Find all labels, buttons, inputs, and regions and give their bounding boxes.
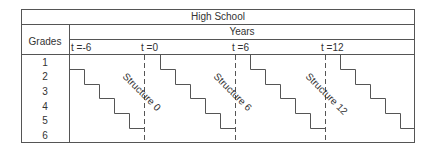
staircase-2 <box>161 55 236 129</box>
structure-12-label: Structure 12 <box>304 71 351 118</box>
grade-5: 5 <box>42 115 48 126</box>
grade-1: 1 <box>42 57 48 68</box>
title-high-school: High School <box>191 11 245 22</box>
high-school-structure-diagram: High School Years Grades t =-6 t =0 t =6… <box>0 0 436 149</box>
years-header: Years <box>229 26 254 37</box>
grade-2: 2 <box>42 71 48 82</box>
grade-list: 1 2 3 4 5 6 <box>42 57 48 141</box>
structure-0-label: Structure 0 <box>121 71 164 114</box>
grade-3: 3 <box>42 86 48 97</box>
staircase-4 <box>341 55 416 129</box>
time-label-minus6: t =-6 <box>71 42 92 53</box>
grades-header: Grades <box>29 36 62 47</box>
grade-6: 6 <box>42 130 48 141</box>
cohort-staircases <box>70 55 415 129</box>
time-label-0: t =0 <box>141 42 158 53</box>
time-label-6: t =6 <box>232 42 249 53</box>
staircase-3 <box>251 55 326 129</box>
structure-6-label: Structure 6 <box>212 71 255 114</box>
grade-4: 4 <box>42 101 48 112</box>
time-label-12: t =12 <box>321 42 344 53</box>
